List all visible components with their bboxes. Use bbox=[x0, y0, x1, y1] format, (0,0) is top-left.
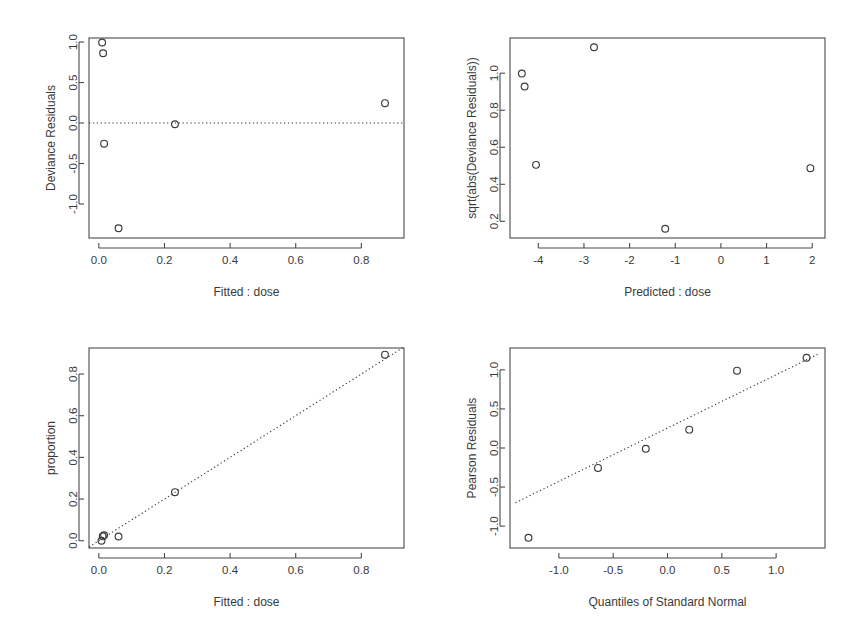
y-tick-label: 0.8 bbox=[488, 102, 500, 118]
data-point bbox=[172, 121, 179, 128]
reference-line bbox=[89, 347, 404, 547]
y-tick-label: 1.0 bbox=[488, 362, 500, 378]
y-tick-label: 0.0 bbox=[67, 533, 79, 549]
diagnostic-plot-figure: 0.00.20.40.60.8Fitted : dose1.00.50.0-0.… bbox=[0, 0, 841, 620]
x-tick-label: 0.2 bbox=[156, 564, 172, 576]
data-point bbox=[382, 351, 389, 358]
x-tick-label: -1.0 bbox=[549, 564, 569, 576]
y-axis-title: proportion bbox=[44, 421, 58, 475]
x-tick-label: 0.4 bbox=[222, 254, 239, 266]
data-point bbox=[99, 39, 106, 46]
x-tick-label: 0.0 bbox=[91, 254, 107, 266]
data-point bbox=[642, 445, 649, 452]
plot-area-1: -4-3-2-1012Predicted : dose0.20.40.60.81… bbox=[465, 38, 825, 299]
panel-normal-qq-canvas: -1.0-0.50.00.51.0Quantiles of Standard N… bbox=[421, 310, 841, 620]
x-tick-label: -4 bbox=[533, 254, 544, 266]
data-point bbox=[521, 83, 528, 90]
reference-line bbox=[515, 353, 819, 502]
plot-frame bbox=[510, 348, 825, 548]
y-tick-label: 0.6 bbox=[488, 139, 500, 155]
panel-observed-vs-fitted-canvas: 0.00.20.40.60.8Fitted : dose0.00.20.40.6… bbox=[0, 310, 420, 620]
plot-frame bbox=[510, 38, 825, 238]
x-axis-title: Fitted : dose bbox=[213, 285, 279, 299]
data-point bbox=[533, 161, 540, 168]
data-point bbox=[101, 140, 108, 147]
x-tick-label: 0.0 bbox=[660, 564, 676, 576]
data-point bbox=[115, 533, 122, 540]
x-tick-label: 0.0 bbox=[91, 564, 107, 576]
data-point bbox=[518, 70, 525, 77]
y-tick-label: 1.0 bbox=[67, 34, 79, 50]
panel-observed-vs-fitted: 0.00.20.40.60.8Fitted : dose0.00.20.40.6… bbox=[0, 310, 420, 620]
y-tick-label: -1.0 bbox=[67, 194, 79, 214]
x-tick-label: 0.5 bbox=[714, 564, 730, 576]
panel-residuals-vs-fitted: 0.00.20.40.60.8Fitted : dose1.00.50.0-0.… bbox=[0, 0, 420, 310]
panel-scale-location: -4-3-2-1012Predicted : dose0.20.40.60.81… bbox=[421, 0, 841, 310]
y-tick-label: 0.5 bbox=[488, 401, 500, 417]
x-axis-title: Predicted : dose bbox=[624, 285, 711, 299]
y-tick-label: 0.6 bbox=[67, 408, 79, 424]
data-point bbox=[686, 426, 693, 433]
y-tick-label: 0.5 bbox=[67, 75, 79, 91]
plot-area-3: -1.0-0.50.00.51.0Quantiles of Standard N… bbox=[465, 348, 825, 609]
y-tick-label: 0.0 bbox=[488, 440, 500, 456]
data-point bbox=[115, 225, 122, 232]
x-tick-label: 1 bbox=[763, 254, 769, 266]
y-axis-title: Pearson Residuals bbox=[465, 398, 479, 499]
y-tick-label: 1.0 bbox=[488, 65, 500, 81]
y-tick-label: 0.4 bbox=[488, 176, 500, 193]
y-axis-title: sqrt(abs(Deviance Residuals)) bbox=[465, 57, 479, 218]
x-tick-label: 0.6 bbox=[288, 564, 304, 576]
y-tick-label: -0.5 bbox=[67, 154, 79, 174]
data-point bbox=[807, 165, 814, 172]
panel-scale-location-canvas: -4-3-2-1012Predicted : dose0.20.40.60.81… bbox=[421, 0, 841, 310]
y-tick-label: 0.2 bbox=[488, 213, 500, 229]
x-tick-label: 2 bbox=[809, 254, 815, 266]
plot-frame bbox=[89, 38, 404, 238]
plot-frame bbox=[89, 348, 404, 548]
panel-residuals-vs-fitted-canvas: 0.00.20.40.60.8Fitted : dose1.00.50.0-0.… bbox=[0, 0, 420, 310]
x-tick-label: 0.8 bbox=[353, 564, 369, 576]
panel-normal-qq: -1.0-0.50.00.51.0Quantiles of Standard N… bbox=[421, 310, 841, 620]
y-tick-label: 0.2 bbox=[67, 491, 79, 507]
data-point bbox=[525, 534, 532, 541]
x-tick-label: -1 bbox=[670, 254, 680, 266]
data-point bbox=[382, 100, 389, 107]
x-axis-title: Quantiles of Standard Normal bbox=[588, 595, 746, 609]
x-tick-label: 0 bbox=[718, 254, 724, 266]
x-tick-label: 0.8 bbox=[353, 254, 369, 266]
plot-area-0: 0.00.20.40.60.8Fitted : dose1.00.50.0-0.… bbox=[44, 34, 404, 299]
data-point bbox=[662, 225, 669, 232]
y-tick-label: 0.8 bbox=[67, 366, 79, 382]
plot-area-2: 0.00.20.40.60.8Fitted : dose0.00.20.40.6… bbox=[44, 347, 404, 609]
y-tick-label: -0.5 bbox=[488, 477, 500, 497]
data-point bbox=[734, 367, 741, 374]
x-tick-label: -0.5 bbox=[603, 564, 623, 576]
x-tick-label: 0.4 bbox=[222, 564, 239, 576]
x-tick-label: 0.2 bbox=[156, 254, 172, 266]
y-axis-title: Deviance Residuals bbox=[44, 85, 58, 191]
x-tick-label: 1.0 bbox=[768, 564, 784, 576]
y-tick-label: 0.0 bbox=[67, 115, 79, 131]
data-point bbox=[100, 50, 107, 57]
data-point bbox=[595, 465, 602, 472]
x-tick-label: -2 bbox=[624, 254, 634, 266]
data-point bbox=[591, 44, 598, 51]
y-tick-label: -1.0 bbox=[488, 516, 500, 536]
x-tick-label: 0.6 bbox=[288, 254, 304, 266]
x-tick-label: -3 bbox=[579, 254, 589, 266]
x-axis-title: Fitted : dose bbox=[213, 595, 279, 609]
y-tick-label: 0.4 bbox=[67, 449, 79, 466]
